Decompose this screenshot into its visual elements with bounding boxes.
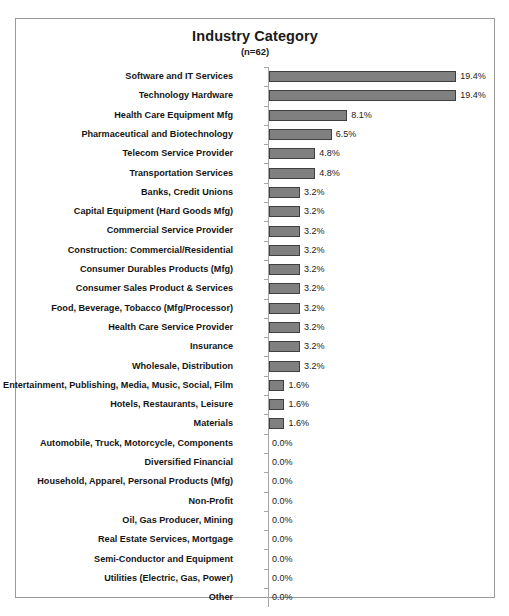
- axis-tick: [264, 106, 268, 107]
- bar-row: Capital Equipment (Hard Goods Mfg)3.2%: [16, 202, 494, 221]
- axis-tick: [264, 472, 268, 473]
- bar-and-value: 4.8%: [269, 163, 340, 182]
- axis-tick: [264, 549, 268, 550]
- bar-value-label: 3.2%: [304, 265, 325, 274]
- bar-and-value: 1.6%: [269, 414, 309, 433]
- bar-value-label: 3.2%: [304, 188, 325, 197]
- bar-row: Consumer Sales Product & Services3.2%: [16, 279, 494, 298]
- category-label: Food, Beverage, Tobacco (Mfg/Processor): [0, 304, 233, 313]
- bar: [269, 168, 315, 179]
- axis-tick: [264, 414, 268, 415]
- category-label: Non-Profit: [0, 497, 233, 506]
- bar-and-value: 3.2%: [269, 221, 324, 240]
- bar-and-value: 1.6%: [269, 376, 309, 395]
- bar: [269, 380, 284, 391]
- bar-value-label: 3.2%: [304, 246, 325, 255]
- bar-and-value: 0.0%: [269, 492, 293, 511]
- bar-value-label: 0.0%: [272, 535, 293, 544]
- axis-tick: [264, 434, 268, 435]
- axis-tick: [264, 67, 268, 68]
- axis-tick: [264, 163, 268, 164]
- axis-tick: [264, 260, 268, 261]
- axis-tick: [264, 299, 268, 300]
- bar-value-label: 0.0%: [272, 439, 293, 448]
- bar: [269, 71, 456, 82]
- plot-area: Software and IT Services19.4%Technology …: [16, 67, 494, 597]
- category-label: Telecom Service Provider: [0, 149, 233, 158]
- axis-tick: [264, 511, 268, 512]
- bar-and-value: 3.2%: [269, 279, 324, 298]
- bar-and-value: 3.2%: [269, 183, 324, 202]
- chart-subtitle: (n=62): [16, 46, 494, 57]
- category-label: Health Care Equipment Mfg: [0, 111, 233, 120]
- bar-and-value: 0.0%: [269, 434, 293, 453]
- axis-tick: [264, 144, 268, 145]
- axis-tick: [264, 183, 268, 184]
- bar-value-label: 3.2%: [304, 227, 325, 236]
- bar-rows: Software and IT Services19.4%Technology …: [16, 67, 494, 607]
- bar-value-label: 0.0%: [272, 458, 293, 467]
- bar-value-label: 1.6%: [288, 419, 309, 428]
- bar-value-label: 4.8%: [319, 149, 340, 158]
- bar-value-label: 3.2%: [304, 342, 325, 351]
- category-label: Other: [0, 593, 233, 602]
- bar-row: Other0.0%: [16, 588, 494, 607]
- bar-value-label: 0.0%: [272, 497, 293, 506]
- bar-and-value: 0.0%: [269, 588, 293, 607]
- bar-row: Food, Beverage, Tobacco (Mfg/Processor)3…: [16, 299, 494, 318]
- bar: [269, 148, 315, 159]
- bar-value-label: 19.4%: [460, 91, 486, 100]
- bar: [269, 399, 284, 410]
- bar-and-value: 3.2%: [269, 299, 324, 318]
- category-label: Automobile, Truck, Motorcycle, Component…: [0, 439, 233, 448]
- bar-value-label: 0.0%: [272, 516, 293, 525]
- category-label: Capital Equipment (Hard Goods Mfg): [0, 207, 233, 216]
- axis-tick: [264, 86, 268, 87]
- category-label: Health Care Service Provider: [0, 323, 233, 332]
- category-label: Utilities (Electric, Gas, Power): [0, 574, 233, 583]
- category-label: Semi-Conductor and Equipment: [0, 555, 233, 564]
- bar-value-label: 3.2%: [304, 207, 325, 216]
- bar-row: Wholesale, Distribution3.2%: [16, 356, 494, 375]
- bar-row: Consumer Durables Products (Mfg)3.2%: [16, 260, 494, 279]
- category-label: Household, Apparel, Personal Products (M…: [0, 477, 233, 486]
- bar-row: Telecom Service Provider4.8%: [16, 144, 494, 163]
- bar-and-value: 0.0%: [269, 569, 293, 588]
- bar-and-value: 3.2%: [269, 260, 324, 279]
- bar-and-value: 0.0%: [269, 472, 293, 491]
- bar: [269, 361, 300, 372]
- bar-value-label: 0.0%: [272, 477, 293, 486]
- category-label: Hotels, Restaurants, Leisure: [0, 400, 233, 409]
- bar-row: Commercial Service Provider3.2%: [16, 221, 494, 240]
- bar-and-value: 3.2%: [269, 337, 324, 356]
- bar-and-value: 1.6%: [269, 395, 309, 414]
- bar-and-value: 3.2%: [269, 318, 324, 337]
- category-label: Transportation Services: [0, 169, 233, 178]
- bar-value-label: 0.0%: [272, 593, 293, 602]
- bar-and-value: 0.0%: [269, 453, 293, 472]
- bar-row: Oil, Gas Producer, Mining0.0%: [16, 511, 494, 530]
- category-label: Banks, Credit Unions: [0, 188, 233, 197]
- axis-tick: [264, 241, 268, 242]
- bar-and-value: 0.0%: [269, 530, 293, 549]
- bar: [269, 245, 300, 256]
- bar: [269, 303, 300, 314]
- bar: [269, 322, 300, 333]
- axis-tick: [264, 530, 268, 531]
- bar-value-label: 0.0%: [272, 574, 293, 583]
- bar-row: Entertainment, Publishing, Media, Music,…: [16, 376, 494, 395]
- bar-and-value: 3.2%: [269, 202, 324, 221]
- bar-and-value: 19.4%: [269, 67, 486, 86]
- bar-and-value: 19.4%: [269, 86, 486, 105]
- bar: [269, 129, 332, 140]
- bar-value-label: 8.1%: [351, 111, 372, 120]
- category-label: Entertainment, Publishing, Media, Music,…: [0, 381, 233, 390]
- bar-and-value: 0.0%: [269, 511, 293, 530]
- bar-row: Utilities (Electric, Gas, Power)0.0%: [16, 569, 494, 588]
- bar-row: Construction: Commercial/Residential3.2%: [16, 241, 494, 260]
- bar-value-label: 1.6%: [288, 400, 309, 409]
- axis-tick: [264, 569, 268, 570]
- bar-value-label: 3.2%: [304, 323, 325, 332]
- bar-row: Software and IT Services19.4%: [16, 67, 494, 86]
- bar-row: Pharmaceutical and Biotechnology6.5%: [16, 125, 494, 144]
